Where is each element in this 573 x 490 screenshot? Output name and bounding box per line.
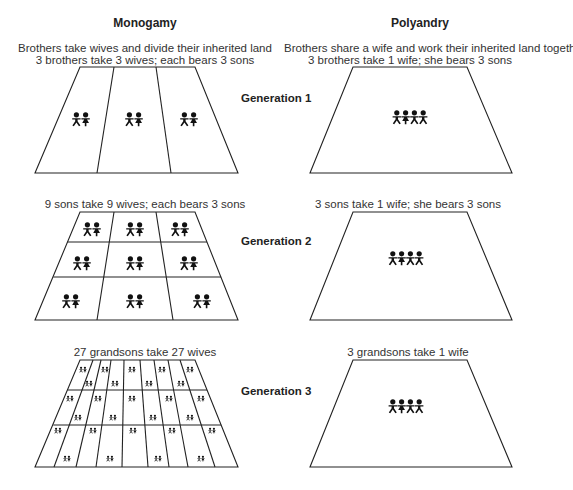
land-division-diagram	[0, 0, 573, 490]
monogamy-gen1-plot	[35, 67, 238, 173]
monogamy-gen3-plot	[35, 360, 238, 467]
monogamy-gen2-plot	[35, 212, 238, 320]
polyandry-gen3-plot	[310, 360, 512, 467]
polyandry-gen1-plot	[310, 67, 512, 173]
polyandry-gen2-plot	[310, 212, 512, 320]
